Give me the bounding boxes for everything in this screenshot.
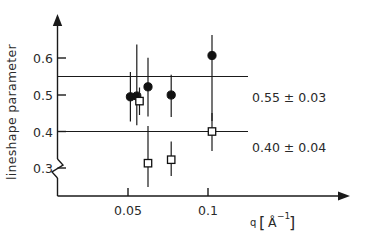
y-tick-label-0.4: 0.4 [33, 125, 53, 140]
x-axis-unit-angstrom: Å [268, 215, 277, 230]
data-point [208, 35, 216, 121]
x-axis-arrow-icon [338, 191, 350, 200]
x-axis [58, 191, 351, 200]
data-point [168, 142, 175, 177]
data-point [208, 113, 215, 151]
data-point [144, 58, 152, 117]
marker-open-square [144, 160, 151, 167]
chart-canvas: 0.6 0.5 0.4 0.3 0.05 0.1 [0, 0, 368, 242]
x-axis-unit-bracket-close: ] [289, 213, 295, 232]
y-axis-title: lineshape parameter [4, 43, 19, 180]
x-axis-ticks [128, 188, 208, 196]
x-axis-unit-bracket-open: [ [259, 213, 265, 232]
marker-filled-circle [208, 51, 216, 59]
y-axis-arrow-icon [53, 14, 62, 26]
x-tick-label-0.1: 0.1 [198, 203, 218, 218]
data-point [144, 126, 151, 187]
chart-figure: 0.6 0.5 0.4 0.3 0.05 0.1 [0, 0, 368, 242]
marker-open-square [208, 128, 215, 135]
annotation-lower-mean: 0.40 ± 0.04 [252, 140, 326, 155]
y-tick-label-0.3: 0.3 [33, 161, 53, 176]
x-tick-label-0.05: 0.05 [114, 203, 142, 218]
y-tick-label-0.5: 0.5 [33, 88, 53, 103]
marker-open-square [136, 97, 143, 104]
y-tick-label-0.6: 0.6 [33, 51, 53, 66]
marker-filled-circle [167, 91, 175, 99]
data-point [167, 75, 175, 117]
annotation-upper-mean: 0.55 ± 0.03 [252, 90, 326, 105]
marker-filled-circle [144, 83, 152, 91]
marker-open-square [168, 156, 175, 163]
y-axis-ticks [58, 58, 67, 168]
x-axis-symbol: q [250, 217, 256, 228]
